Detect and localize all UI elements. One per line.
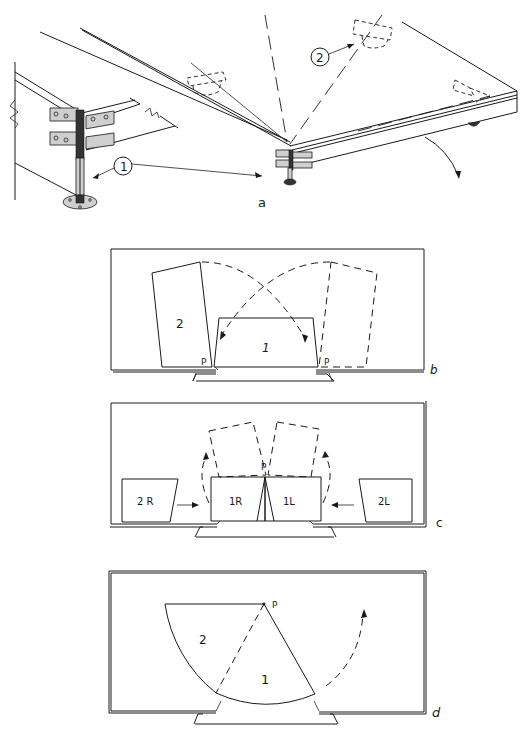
panel-a-isometric-view: 1 2 a	[10, 15, 517, 210]
section-2-label: 2	[176, 317, 184, 331]
pivot-point	[263, 603, 266, 606]
panel-c-label: c	[436, 516, 443, 530]
section-1-label: 1	[261, 672, 269, 687]
hinge-bracket-center	[276, 150, 312, 170]
figure-canvas: 1 2 a	[0, 0, 521, 731]
section-1r-label: 1R	[229, 496, 242, 507]
section-2-arc	[165, 604, 216, 693]
callout-2: 2	[311, 44, 354, 66]
panel-c-plan-view: 2 R 1R 1L 2L P c	[110, 401, 443, 537]
panel-b-label: b	[430, 363, 438, 377]
section-1l-ghost	[268, 422, 319, 477]
panel-a-label: a	[258, 195, 266, 210]
panel-d-label: d	[432, 705, 441, 720]
callout-1-label: 1	[120, 160, 128, 174]
section-2l-label: 2L	[378, 496, 390, 507]
support-leg-left	[63, 158, 97, 209]
swing-arc	[326, 614, 363, 686]
section-divider	[216, 604, 264, 693]
section-1-label: 1	[262, 341, 270, 355]
hinge-bracket-left	[50, 108, 114, 160]
arc-right	[323, 455, 330, 503]
panel-b-plan-view: 2 1 P P b	[111, 249, 438, 381]
section-2-ghost	[319, 262, 377, 367]
arc-left	[202, 455, 209, 503]
section-1l-label: 1L	[283, 496, 295, 507]
callout-1: 1	[93, 157, 262, 179]
rotation-arc-right	[202, 262, 305, 338]
pivot-p-left: P	[201, 357, 207, 367]
section-2-label: 2	[199, 633, 207, 647]
section-2r-label: 2 R	[137, 496, 154, 507]
section-2-solid	[152, 262, 212, 367]
callout-2-label: 2	[316, 51, 324, 65]
section-1-arc	[216, 693, 315, 704]
pivot-p: P	[272, 600, 278, 610]
section-1r-ghost	[209, 422, 266, 477]
panel-d-plan-view: 2 1 P d	[109, 571, 441, 724]
pivot-p: P	[261, 462, 267, 472]
hidden-bracket-outlines	[187, 20, 490, 102]
support-leg-center	[284, 168, 296, 185]
section-1-right-edge	[264, 604, 315, 694]
pivot-p-right: P	[324, 357, 330, 367]
